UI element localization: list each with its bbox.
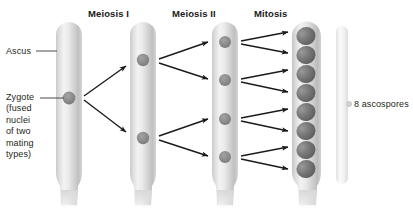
ascus-tube-4 bbox=[292, 21, 321, 210]
arrow bbox=[84, 66, 126, 96]
label-8-ascospores: 8 ascospores bbox=[354, 99, 409, 110]
label-zygote: Zygote (fused nuclei of two mating types… bbox=[6, 92, 34, 160]
stage-header-meiosis-1: Meiosis I bbox=[88, 8, 129, 19]
meiosis-ii-arrows bbox=[159, 42, 208, 156]
label-ascus: Ascus bbox=[6, 46, 31, 57]
nucleus bbox=[219, 151, 231, 163]
nucleus bbox=[219, 36, 231, 48]
nucleus bbox=[137, 54, 149, 66]
arrow bbox=[241, 32, 288, 41]
arrow bbox=[241, 121, 288, 131]
arrow bbox=[241, 159, 288, 169]
arrow bbox=[159, 63, 208, 79]
stage-header-mitosis: Mitosis bbox=[254, 8, 287, 19]
diagram-canvas bbox=[0, 0, 413, 212]
mitosis-arrows bbox=[241, 32, 288, 169]
nucleus bbox=[219, 74, 231, 86]
arrow bbox=[241, 82, 288, 92]
ascus-tube-2 bbox=[130, 22, 156, 210]
arrow bbox=[241, 109, 288, 118]
arrow bbox=[241, 70, 288, 79]
arrow bbox=[241, 147, 288, 156]
nucleus bbox=[137, 132, 149, 144]
arrow bbox=[159, 140, 208, 156]
nucleus bbox=[63, 92, 76, 105]
arrow bbox=[241, 44, 288, 53]
ascospore-bracket bbox=[336, 26, 352, 184]
arrow bbox=[84, 100, 126, 132]
meiosis-i-arrows bbox=[84, 66, 126, 132]
stage-header-meiosis-2: Meiosis II bbox=[172, 8, 216, 19]
ascus-tube-1 bbox=[56, 22, 82, 210]
nucleus bbox=[219, 113, 231, 125]
arrow bbox=[159, 42, 208, 59]
arrow bbox=[159, 119, 208, 136]
ascus-tube-3 bbox=[212, 22, 238, 210]
ascus-diagram: Meiosis I Meiosis II Mitosis Ascus Zygot… bbox=[0, 0, 413, 212]
